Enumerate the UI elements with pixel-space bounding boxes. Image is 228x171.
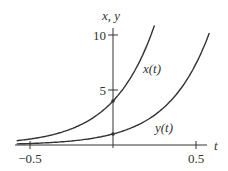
x-axis-label: t bbox=[214, 138, 218, 153]
chart-svg: −0.50.5510tx, y x(t)y(t) bbox=[0, 0, 228, 171]
marked-point bbox=[111, 132, 115, 136]
labels: x(t)y(t) bbox=[142, 61, 173, 135]
y-axis-label: x, y bbox=[101, 8, 120, 23]
chart: −0.50.5510tx, y x(t)y(t) bbox=[0, 0, 228, 171]
x-curve bbox=[17, 25, 155, 140]
x-tick-label: −0.5 bbox=[18, 151, 42, 166]
y-tick-label: 10 bbox=[93, 28, 106, 43]
x-tick-label: 0.5 bbox=[188, 151, 204, 166]
x-curve-label: x(t) bbox=[142, 61, 161, 76]
y-curve-label: y(t) bbox=[153, 120, 173, 135]
y-tick-label: 5 bbox=[100, 83, 107, 98]
marked-point bbox=[111, 99, 115, 103]
